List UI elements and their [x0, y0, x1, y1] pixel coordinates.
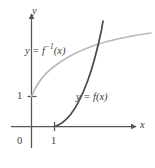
curve-function	[55, 21, 104, 127]
inverse-function-label-suffix: (x)	[54, 45, 66, 56]
inverse-function-label-exponent: −1	[45, 42, 54, 51]
function-label: y = f(x)	[76, 92, 108, 103]
figure-container: y x 0 1 1 y = f−1(x) y = f(x)	[0, 0, 155, 168]
x-tick-label-1: 1	[51, 136, 56, 147]
inverse-function-label: y = f−1(x)	[25, 43, 65, 56]
graph-canvas	[0, 0, 155, 168]
y-axis-label: y	[32, 6, 37, 17]
x-axis-label: x	[140, 120, 145, 131]
inverse-function-label-prefix: y = f	[25, 45, 45, 56]
origin-label: 0	[17, 136, 22, 147]
y-tick-label-1: 1	[17, 91, 22, 102]
